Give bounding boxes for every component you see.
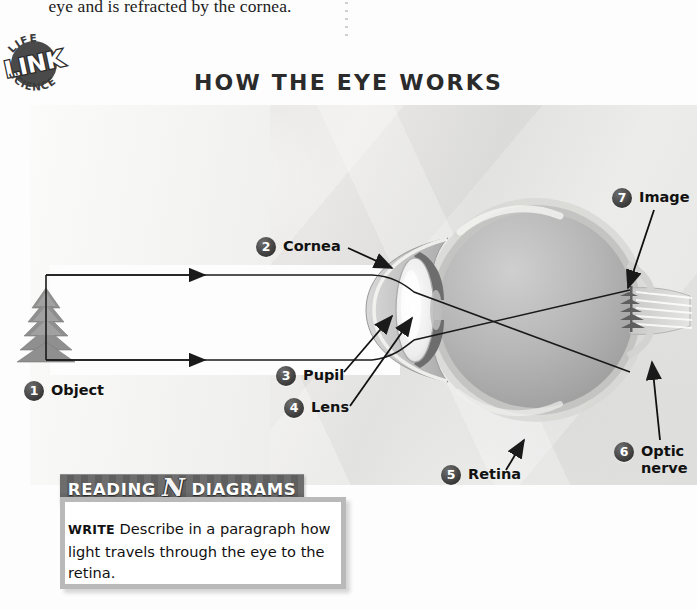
label-lens[interactable]: 4 Lens [284, 398, 349, 418]
label-number-badge: 2 [256, 237, 276, 257]
label-number-badge: 6 [614, 442, 634, 462]
label-text: Lens [311, 398, 349, 416]
eye-diagram-photo-panel [30, 105, 697, 485]
label-text: Retina [468, 465, 521, 483]
label-text: Optic nerve [641, 442, 688, 477]
label-object[interactable]: 1 Object [24, 381, 104, 401]
label-cornea[interactable]: 2 Cornea [256, 237, 341, 257]
label-number-badge: 7 [612, 188, 632, 208]
textbook-page: eye and is refracted by the cornea. LINK… [0, 0, 697, 609]
label-optic-nerve[interactable]: 6 Optic nerve [614, 442, 688, 477]
write-activity-text: WRITE Describe in a paragraph how light … [68, 518, 336, 584]
banner-left-word: READING [68, 480, 156, 499]
label-number-badge: 1 [24, 381, 44, 401]
label-text: Image [639, 188, 690, 206]
light-ray-white-field [50, 265, 400, 375]
banner-right-word: DIAGRAMS [191, 480, 296, 499]
column-divider-dots [345, 2, 348, 42]
label-number-badge: 3 [276, 366, 296, 386]
label-number-badge: 4 [284, 398, 304, 418]
label-text: Object [51, 381, 104, 399]
label-image[interactable]: 7 Image [612, 188, 690, 208]
write-keyword: WRITE [68, 522, 115, 537]
label-retina[interactable]: 5 Retina [441, 465, 521, 485]
label-text: Cornea [283, 237, 341, 255]
label-pupil[interactable]: 3 Pupil [276, 366, 344, 386]
label-number-badge: 5 [441, 465, 461, 485]
page-title: HOW THE EYE WORKS [0, 70, 697, 95]
running-body-text: eye and is refracted by the cornea. [0, 0, 340, 17]
label-text: Pupil [303, 366, 344, 384]
